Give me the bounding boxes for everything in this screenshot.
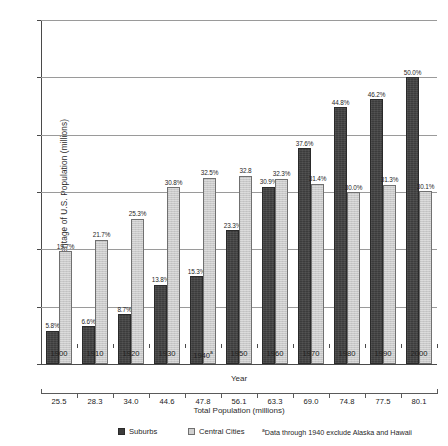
bar-central-1900[interactable] [59, 251, 72, 364]
x-axis-tick-2 [113, 344, 114, 348]
total-population-axis-title: Total Population (millions) [41, 406, 437, 415]
x-axis-tick-10 [401, 344, 402, 348]
x-tick-label-text: 1950 [231, 349, 248, 358]
legend-label: Suburbs [129, 427, 157, 436]
x-tick-label-superscript: a [210, 349, 213, 355]
bar-suburb-2000[interactable] [406, 77, 419, 364]
bar-group-1960: 30.9%32.3% [262, 20, 288, 364]
bar-suburb-1980[interactable] [334, 107, 347, 364]
bar-group-2000: 50.0%30.1% [406, 20, 432, 364]
bar-group-1920: 8.7%25.3% [118, 20, 144, 364]
bar-label-central-1970: 31.4% [305, 175, 331, 182]
x-axis-label-1920: 1920 [111, 349, 151, 358]
bar-suburb-1950[interactable] [226, 230, 239, 364]
total-population-axis-line [41, 393, 437, 394]
x-axis-label-1940a: 1940a [183, 349, 223, 360]
x-tick-label-text: 1990 [375, 349, 392, 358]
total-population-label-1910: 28.3 [75, 397, 115, 406]
total-population-label-1940a: 47.8 [183, 397, 223, 406]
gridline-0 [41, 364, 437, 365]
bar-central-1960[interactable] [275, 179, 288, 364]
total-population-axis: 25.528.334.044.647.856.163.369.074.877.5… [41, 393, 437, 403]
bar-group-1990: 46.2%31.3% [370, 20, 396, 364]
x-axis-tick-9 [365, 344, 366, 348]
total-population-label-1950: 56.1 [219, 397, 259, 406]
legend-swatch-suburb-icon [118, 428, 125, 435]
x-axis-label-1990: 1990 [363, 349, 403, 358]
legend-footnote: aData through 1940 exclude Alaska and Ha… [262, 427, 412, 437]
bar-label-central-1990: 31.3% [377, 176, 403, 183]
legend-item-suburb[interactable]: Suburbs [118, 427, 157, 436]
total-population-label-1990: 77.5 [363, 397, 403, 406]
legend-swatch-central-icon [188, 428, 195, 435]
bar-central-1970[interactable] [311, 184, 324, 364]
x-tick-label-text: 1980 [339, 349, 356, 358]
x-axis-label-1930: 1930 [147, 349, 187, 358]
x-tick-label-text: 2000 [411, 349, 428, 358]
bar-central-1930[interactable] [167, 187, 180, 364]
total-population-label-1920: 34.0 [111, 397, 151, 406]
bar-central-1920[interactable] [131, 219, 144, 364]
x-axis-label-2000: 2000 [399, 349, 439, 358]
x-axis-label-1970: 1970 [291, 349, 331, 358]
bar-suburb-1900[interactable] [46, 331, 59, 364]
total-population-label-1960: 63.3 [255, 397, 295, 406]
footnote-text: Data through 1940 exclude Alaska and Haw… [265, 428, 412, 437]
x-tick-label-text: 1930 [159, 349, 176, 358]
bar-label-central-1950: 32.8 [233, 167, 259, 174]
total-population-label-1930: 44.6 [147, 397, 187, 406]
bar-label-central-1940a: 32.5% [197, 169, 223, 176]
bar-label-central-1930: 30.8% [161, 179, 187, 186]
y-tick-0 [37, 364, 41, 365]
x-tick-label-text: 1910 [87, 349, 104, 358]
x-axis-tick-7 [293, 344, 294, 348]
bar-group-1900: 5.8%19.7% [46, 20, 72, 364]
y-tick-40 [37, 135, 41, 136]
legend-item-central[interactable]: Central Cities [188, 427, 245, 436]
x-axis-label-1960: 1960 [255, 349, 295, 358]
x-axis-label-1900: 1900 [39, 349, 79, 358]
y-tick-30 [37, 192, 41, 193]
x-axis-tick-3 [149, 344, 150, 348]
total-population-tick-11 [437, 389, 438, 394]
x-axis-label-1980: 1980 [327, 349, 367, 358]
bar-label-central-1980: 30.0% [341, 184, 367, 191]
total-population-label-1970: 69.0 [291, 397, 331, 406]
total-population-tick-0 [41, 389, 42, 394]
bar-label-central-2000: 30.1% [413, 183, 439, 190]
bar-central-1980[interactable] [347, 192, 360, 364]
total-population-label-1980: 74.8 [327, 397, 367, 406]
x-axis-tick-6 [257, 344, 258, 348]
x-tick-label-text: 1940 [193, 351, 210, 360]
x-axis-title: Year [41, 374, 437, 383]
total-population-label-1900: 25.5 [39, 397, 79, 406]
bar-suburb-1960[interactable] [262, 187, 275, 364]
bar-group-1950: 23.3%32.8 [226, 20, 252, 364]
bar-group-1940a: 15.3%32.5% [190, 20, 216, 364]
bar-group-1980: 44.8%30.0% [334, 20, 360, 364]
bar-label-central-1910: 21.7% [89, 231, 115, 238]
x-axis-tick-8 [329, 344, 330, 348]
bar-label-central-1900: 19.7% [53, 243, 79, 250]
x-axis-tick-5 [221, 344, 222, 348]
chart-figure: Percentage of U.S. Population (millions)… [0, 0, 448, 446]
y-tick-50 [37, 77, 41, 78]
bar-central-2000[interactable] [419, 191, 432, 364]
bar-central-1910[interactable] [95, 240, 108, 364]
x-tick-label-text: 1970 [303, 349, 320, 358]
x-axis-label-1950: 1950 [219, 349, 259, 358]
x-axis-tick-11 [437, 344, 438, 348]
bar-suburb-1990[interactable] [370, 99, 383, 364]
bar-label-suburb-1970: 37.6% [292, 140, 318, 147]
bar-group-1930: 13.8%30.8% [154, 20, 180, 364]
y-tick-60 [37, 20, 41, 21]
bar-label-central-1920: 25.3% [125, 210, 151, 217]
bar-label-suburb-1990: 46.2% [364, 91, 390, 98]
x-axis-label-1910: 1910 [75, 349, 115, 358]
bar-central-1940a[interactable] [203, 178, 216, 364]
chart-legend: aData through 1940 exclude Alaska and Ha… [0, 427, 448, 441]
bar-central-1990[interactable] [383, 185, 396, 364]
bar-central-1950[interactable] [239, 176, 252, 364]
total-population-label-2000: 80.1 [399, 397, 439, 406]
bar-suburb-1910[interactable] [82, 326, 95, 364]
